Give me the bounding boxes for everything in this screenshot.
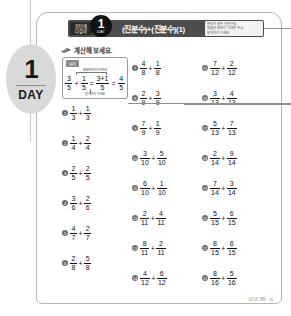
problem-operand-a-numerator: 3 xyxy=(71,195,77,202)
problem-operand-b-denominator: 8 xyxy=(155,69,161,76)
problem-operand-b-numerator: 2 xyxy=(158,240,164,247)
problem-expression: 811+211 xyxy=(140,240,166,256)
problem-item[interactable]: 22816+516 xyxy=(202,270,237,286)
problem-number: 17 xyxy=(202,125,208,131)
problem-item[interactable]: 13811+211 xyxy=(132,240,166,256)
problem-operand-b: 612 xyxy=(157,270,167,286)
problem-operand-b-numerator: 6 xyxy=(229,240,235,247)
problem-operand-b-numerator: 5 xyxy=(229,270,235,277)
problem-operand-a-numerator: 8 xyxy=(142,240,148,247)
problem-operand-a-numerator: 6 xyxy=(142,180,148,187)
problem-item[interactable]: 18214+914 xyxy=(202,150,237,166)
problem-operand-b-numerator: 1 xyxy=(85,105,91,112)
problem-operand-a: 13 xyxy=(70,105,77,121)
problem-item[interactable]: 20515+615 xyxy=(202,210,237,226)
problem-operand-b-denominator: 4 xyxy=(85,144,91,151)
problem-expression: 816+516 xyxy=(210,270,237,286)
problem-number: 8 xyxy=(132,95,138,101)
problem-operator: + xyxy=(148,65,153,72)
problem-operand-a-denominator: 14 xyxy=(210,189,220,196)
problem-item[interactable]: 436+26 xyxy=(62,195,91,211)
problem-item[interactable]: 17513+713 xyxy=(202,120,237,136)
problem-operand-a-numerator: 2 xyxy=(71,255,77,262)
problem-item[interactable]: 979+19 xyxy=(132,120,161,136)
problem-expression: 79+19 xyxy=(140,120,161,136)
problem-number: 2 xyxy=(62,140,68,146)
problem-expression: 25+25 xyxy=(70,165,91,181)
problem-operand-a-denominator: 15 xyxy=(210,219,220,226)
header-note: 분모가 같은 진분수의 덧셈은 분모는 그대로 두고, 분자끼리 더해요. xyxy=(205,21,263,36)
problem-operand-a-numerator: 3 xyxy=(212,90,218,97)
problem-operand-a-numerator: 3 xyxy=(142,150,148,157)
problem-number: 18 xyxy=(202,155,208,161)
problem-number: 20 xyxy=(202,215,208,221)
problem-operand-b-denominator: 7 xyxy=(85,234,91,241)
unit-badge-number: 1 xyxy=(98,19,105,30)
problem-operand-b-numerator: 6 xyxy=(229,210,235,217)
problem-operand-b-numerator: 2 xyxy=(85,195,91,202)
problem-number: 13 xyxy=(132,245,138,251)
problem-number: 6 xyxy=(62,260,68,266)
problem-operand-b-denominator: 13 xyxy=(227,129,237,136)
problem-operand-a-numerator: 5 xyxy=(212,210,218,217)
problem-operand-b: 411 xyxy=(156,210,165,226)
problem-operand-b: 510 xyxy=(157,150,167,166)
problem-item[interactable]: 21815+615 xyxy=(202,240,237,256)
problem-operand-a-numerator: 5 xyxy=(212,120,218,127)
problem-expression: 13+13 xyxy=(70,105,91,121)
problem-operand-b-numerator: 2 xyxy=(85,135,91,142)
problem-operand-b: 25 xyxy=(84,165,91,181)
problem-number: 4 xyxy=(62,200,68,206)
problem-number: 5 xyxy=(62,230,68,236)
unit-badge: 1 DAY xyxy=(90,15,112,37)
problem-number: 1 xyxy=(62,110,68,116)
problem-operator: + xyxy=(221,125,226,132)
problem-expression: 36+26 xyxy=(70,195,91,211)
problem-operand-b: 13 xyxy=(84,105,91,121)
problem-item[interactable]: 547+27 xyxy=(62,225,91,241)
unit-badge-label: DAY xyxy=(97,30,105,34)
problem-operator: + xyxy=(78,230,83,237)
problem-operand-a-denominator: 11 xyxy=(140,249,149,256)
problem-operand-b: 18 xyxy=(154,60,161,76)
problem-operand-a-numerator: 2 xyxy=(212,150,218,157)
problem-operator: + xyxy=(221,245,226,252)
fold-line-bottom xyxy=(184,104,291,105)
problem-operand-a-numerator: 1 xyxy=(71,105,77,112)
problem-operand-a-denominator: 12 xyxy=(140,279,150,286)
problem-operand-a: 712 xyxy=(210,60,220,76)
problem-operand-b-numerator: 2 xyxy=(85,165,91,172)
problem-operand-a: 610 xyxy=(140,180,150,196)
problem-operand-b-numerator: 5 xyxy=(159,150,165,157)
problem-item[interactable]: 14412+612 xyxy=(132,270,167,286)
problem-operand-a-numerator: 4 xyxy=(71,225,77,232)
problem-operand-b-denominator: 10 xyxy=(157,159,167,166)
problem-operand-b-numerator: 5 xyxy=(85,255,91,262)
problem-operator: + xyxy=(221,65,226,72)
problem-number: 16 xyxy=(202,95,208,101)
problem-operand-a-denominator: 13 xyxy=(210,129,220,136)
problem-operand-a-numerator: 8 xyxy=(212,240,218,247)
problem-number: 3 xyxy=(62,170,68,176)
problem-item[interactable]: 325+25 xyxy=(62,165,91,181)
problem-operand-a: 28 xyxy=(70,255,77,271)
problem-operand-b-denominator: 15 xyxy=(227,249,237,256)
day-tab-rule xyxy=(16,85,46,86)
problem-operand-b-denominator: 8 xyxy=(85,264,91,271)
problem-operator: + xyxy=(151,155,156,162)
problem-item[interactable]: 12211+411 xyxy=(132,210,166,226)
day-tab-number: 1 xyxy=(24,56,37,82)
instruction-row: 계산해 보세요. xyxy=(60,45,112,55)
problem-item[interactable]: 19714+314 xyxy=(202,180,237,196)
problem-operand-b-denominator: 14 xyxy=(227,159,237,166)
problem-operand-a: 14 xyxy=(70,135,77,151)
problem-item[interactable]: 11610+110 xyxy=(132,180,167,196)
problem-operand-a-numerator: 7 xyxy=(212,60,218,67)
problem-operand-b-denominator: 3 xyxy=(85,114,91,121)
problem-item[interactable]: 628+58 xyxy=(62,255,91,271)
problem-item[interactable]: 10310+510 xyxy=(132,150,167,166)
problem-item[interactable]: 214+24 xyxy=(62,135,91,151)
problem-item[interactable]: 15712+212 xyxy=(202,60,237,76)
problem-item[interactable]: 113+13 xyxy=(62,105,91,121)
problem-item[interactable]: 748+18 xyxy=(132,60,161,76)
